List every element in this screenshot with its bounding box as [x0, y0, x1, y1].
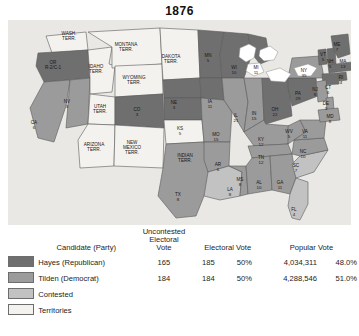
map-svg: WASH.TERR.ORR-2/C-1CA6NV3IDAHOTERR.MONTA… [8, 20, 351, 225]
legend-swatch-tilden [8, 272, 34, 283]
legend-table: Candidate (Party) Uncontested Electoral … [0, 228, 359, 319]
state-label-mi: 11 [254, 70, 259, 75]
legend-popular-pct [319, 303, 359, 319]
state-ia[interactable] [200, 78, 224, 100]
legend-popular-pct [319, 287, 359, 303]
state-label-dt: TERR. [164, 59, 178, 64]
legend-swatch-cell [0, 255, 36, 271]
legend-row: Tilden (Democrat)18418450%4,288,54651.0% [0, 271, 359, 287]
state-it[interactable] [164, 120, 204, 144]
legend-popular [264, 287, 319, 303]
state-label-mo: 15 [214, 137, 219, 142]
legend-candidate: Contested [36, 287, 136, 303]
legend-swatch-cell [0, 287, 36, 303]
state-label-tn: 12 [259, 160, 264, 165]
state-label-ut: TERR. [93, 109, 107, 114]
page-title: 1876 [0, 4, 359, 18]
legend-candidate: Tilden (Democrat) [36, 271, 136, 287]
state-label-oh: 22 [273, 112, 278, 117]
legend-candidate: Territories [36, 303, 136, 319]
legend: Candidate (Party) Uncontested Electoral … [0, 228, 359, 336]
legend-uncontested [136, 287, 192, 303]
state-ks[interactable] [164, 98, 202, 120]
legend-electoral: 184 [192, 271, 225, 287]
electoral-map: WASH.TERR.ORR-2/C-1CA6NV3IDAHOTERR.MONTA… [8, 20, 351, 225]
legend-popular [264, 303, 319, 319]
legend-uncontested: 184 [136, 271, 192, 287]
legend-header-uncontested: Uncontested Electoral Vote [136, 228, 192, 255]
legend-electoral-pct [225, 287, 264, 303]
state-label-al: 10 [257, 185, 262, 190]
legend-electoral [192, 287, 225, 303]
state-oh[interactable] [262, 78, 292, 124]
state-label-wy: TERR. [127, 80, 141, 85]
legend-swatch-cell [0, 303, 36, 319]
legend-swatch-territory [8, 304, 34, 315]
legend-electoral-pct: 50% [225, 255, 264, 271]
legend-electoral-pct [225, 303, 264, 319]
legend-header-row: Candidate (Party) Uncontested Electoral … [0, 228, 359, 255]
legend-header-popular: Popular Vote [264, 228, 359, 255]
state-label-nc: 10 [301, 154, 306, 159]
state-label-wa: TERR. [62, 36, 76, 41]
state-label-nm: TERR. [125, 150, 139, 155]
state-label-va: 11 [303, 134, 308, 139]
legend-row: Hayes (Republican)16518550%4,034,31148.0… [0, 255, 359, 271]
state-label-or: R-2/C-1 [45, 65, 62, 70]
state-label-id: TERR. [89, 69, 103, 74]
state-label-pa: 29 [296, 96, 301, 101]
state-label-il: 21 [234, 118, 239, 123]
state-label-mt: TERR. [119, 47, 133, 52]
state-label-ma: 13 [341, 64, 346, 69]
legend-swatch-contested [8, 288, 34, 299]
legend-header-electoral: Electoral Vote [192, 228, 264, 255]
state-label-az: TERR. [87, 147, 101, 152]
legend-row: Contested [0, 287, 359, 303]
legend-swatch-hayes [8, 256, 34, 267]
state-label-in: 15 [252, 116, 257, 121]
legend-popular: 4,034,311 [264, 255, 319, 271]
state-label-ga: 11 [278, 185, 283, 190]
state-label-ky: 12 [259, 142, 264, 147]
state-label-wi: 10 [232, 70, 237, 75]
legend-uncontested [136, 303, 192, 319]
legend-electoral: 185 [192, 255, 225, 271]
legend-header-swatch [0, 228, 36, 255]
state-label-it: TERR. [178, 158, 192, 163]
legend-electoral [192, 303, 225, 319]
legend-electoral-pct: 50% [225, 271, 264, 287]
legend-candidate: Hayes (Republican) [36, 255, 136, 271]
legend-popular: 4,288,546 [264, 271, 319, 287]
legend-header-candidate: Candidate (Party) [36, 228, 136, 255]
state-ne[interactable] [163, 78, 201, 98]
legend-popular-pct: 51.0% [319, 271, 359, 287]
state-label-ny: 35 [302, 73, 307, 78]
legend-uncontested: 165 [136, 255, 192, 271]
state-label-ia: 11 [208, 104, 213, 109]
uncontested-line3: Vote [156, 243, 171, 252]
legend-popular-pct: 48.0% [319, 255, 359, 271]
legend-swatch-cell [0, 271, 36, 287]
legend-body: Hayes (Republican)16518550%4,034,31148.0… [0, 255, 359, 319]
legend-row: Territories [0, 303, 359, 319]
